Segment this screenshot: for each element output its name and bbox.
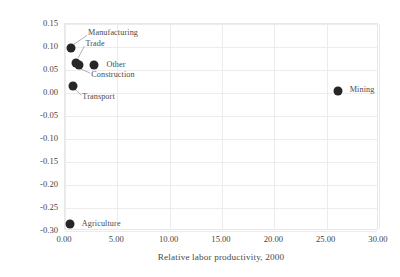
y-tick-label: -0.20 <box>22 179 58 189</box>
gridline-vertical <box>222 24 223 229</box>
y-tick-label: 0.00 <box>22 87 58 97</box>
data-point-label: Transport <box>82 92 114 101</box>
gridline-horizontal <box>65 162 377 163</box>
y-tick-label: -0.05 <box>22 110 58 120</box>
data-point <box>89 61 98 70</box>
gridline-horizontal <box>65 24 377 25</box>
x-tick-label: 30.00 <box>368 234 387 244</box>
x-tick-label: 10.00 <box>159 234 178 244</box>
x-tick-label: 0.00 <box>56 234 71 244</box>
y-tick-label: -0.25 <box>22 202 58 212</box>
plot-area <box>64 23 378 230</box>
gridline-horizontal <box>65 208 377 209</box>
gridline-vertical <box>379 24 380 229</box>
x-axis-title: Relative labor productivity, 2000 <box>64 252 378 262</box>
data-point-label: Construction <box>91 70 135 79</box>
y-tick-label: 0.10 <box>22 41 58 51</box>
gridline-horizontal <box>65 116 377 117</box>
gridline-horizontal <box>65 185 377 186</box>
data-point-label: Mining <box>350 85 375 94</box>
data-point <box>75 61 84 70</box>
gridline-vertical <box>65 24 66 229</box>
data-point <box>69 82 78 91</box>
data-point-label: Other <box>106 60 125 69</box>
y-tick-label: -0.10 <box>22 133 58 143</box>
data-point-label: Trade <box>85 39 104 48</box>
x-tick-label: 20.00 <box>264 234 283 244</box>
y-tick-label: 0.05 <box>22 64 58 74</box>
x-tick-label: 25.00 <box>316 234 335 244</box>
y-tick-label: 0.15 <box>22 18 58 28</box>
x-tick-label: 15.00 <box>211 234 230 244</box>
gridline-horizontal <box>65 47 377 48</box>
data-point <box>334 87 343 96</box>
gridline-horizontal <box>65 139 377 140</box>
y-tick-label: -0.30 <box>22 225 58 235</box>
gridline-vertical <box>274 24 275 229</box>
data-point-label: Manufacturing <box>88 28 138 37</box>
gridline-horizontal <box>65 231 377 232</box>
gridline-vertical <box>327 24 328 229</box>
data-point <box>67 44 76 53</box>
x-tick-label: 5.00 <box>109 234 124 244</box>
gridline-vertical <box>117 24 118 229</box>
data-point-label: Agriculture <box>82 219 121 228</box>
y-tick-label: -0.15 <box>22 156 58 166</box>
gridline-vertical <box>170 24 171 229</box>
scatter-chart: Change in employment shares, 2000–2019 0… <box>0 0 400 277</box>
data-point <box>66 220 75 229</box>
